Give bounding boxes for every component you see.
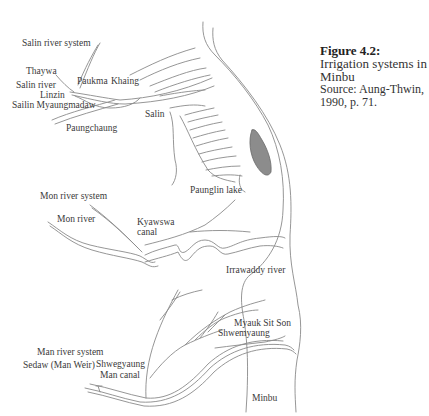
label-paukma: Paukma — [77, 76, 108, 87]
label-sedaw-man-weir: Sedaw (Man Weir) — [23, 360, 95, 371]
label-man-canal: Man canal — [100, 370, 140, 381]
label-sailin-myaungmadaw: Sailin Myaungmadaw — [12, 100, 96, 111]
hatch — [185, 108, 214, 115]
shwegyaung-branch-2 — [150, 330, 222, 378]
branch-3 — [172, 290, 202, 300]
hatch — [193, 130, 225, 138]
salin-channel — [170, 112, 176, 185]
feeder-2 — [140, 58, 200, 80]
hatch — [188, 115, 218, 122]
label-salin-river-system: Salin river system — [22, 38, 91, 49]
hatch — [190, 122, 222, 130]
salin-channel-2 — [180, 116, 235, 182]
feeder-4 — [155, 75, 210, 92]
feeder-6 — [170, 105, 205, 108]
hatch — [202, 156, 236, 162]
label-man-river-system: Man river system — [37, 347, 104, 358]
figure-source: Source: Aung-Thwin, 1990, p. 71. — [320, 83, 429, 109]
kyawswa-canal-2 — [190, 231, 250, 233]
figure-title: Irrigation systems in Minbu — [320, 57, 429, 83]
label-paungchaung: Paungchaung — [66, 123, 117, 134]
label-mon-river: Mon river — [57, 214, 95, 225]
label-paunglin-lake: Paunglin lake — [190, 185, 242, 196]
irrawaddy-east-bank — [213, 28, 301, 412]
lake-shape — [250, 130, 271, 176]
label-shwegyaung: Shwegyaung — [96, 359, 145, 370]
label-shwemyaung: Shwemyaung — [218, 328, 270, 339]
figure-caption: Figure 4.2: Irrigation systems in Minbu … — [320, 44, 429, 109]
label-mon-river-system: Mon river system — [40, 191, 107, 202]
mon-system-2 — [92, 208, 142, 252]
label-thaywa: Thaywa — [26, 66, 57, 77]
hatch — [196, 138, 228, 146]
label-minbu: Minbu — [252, 393, 277, 404]
hatch — [199, 147, 232, 154]
label-irrawaddy-river: Irrawaddy river — [226, 265, 285, 276]
hatch — [206, 166, 240, 170]
label-canal: canal — [137, 227, 157, 238]
label-khaing: Khaing — [111, 76, 139, 87]
hatch — [212, 175, 242, 176]
label-salin: Salin — [145, 109, 165, 120]
shwegyaung-branch — [146, 290, 178, 398]
irrawaddy-west-bank — [203, 22, 284, 412]
